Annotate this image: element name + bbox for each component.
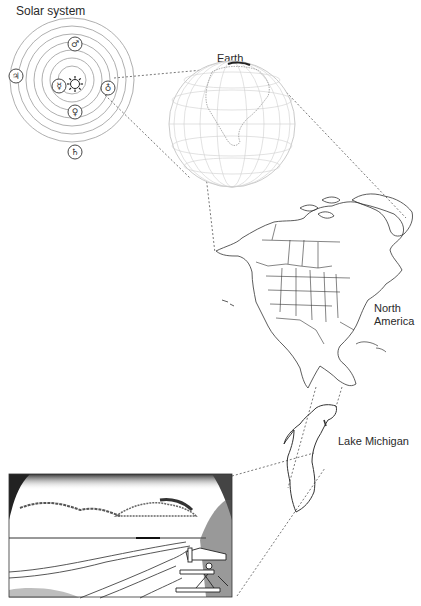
mercury-symbol: ☿ (56, 81, 62, 91)
earth-symbol: ♁ (105, 83, 112, 93)
north-america-map (216, 194, 413, 388)
diagram-canvas: ☿ ♀ ♁ ♂ ♃ ♄ (0, 0, 421, 606)
solar-system-diagram: ☿ ♀ ♁ ♂ ♃ ♄ (9, 18, 134, 159)
venus-symbol: ♀ (72, 107, 79, 117)
saturn-symbol: ♄ (71, 147, 79, 157)
beach-scene-illustration (9, 474, 232, 598)
sun-icon (67, 76, 83, 92)
lake-michigan-map (284, 405, 337, 512)
earth-globe (169, 61, 295, 187)
mars-symbol: ♂ (71, 39, 79, 49)
jupiter-symbol: ♃ (12, 71, 20, 81)
